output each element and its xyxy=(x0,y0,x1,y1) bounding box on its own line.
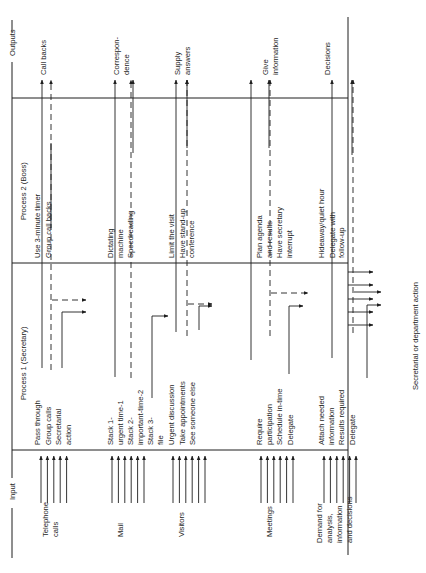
process2-item: Hideaway/quiet hour xyxy=(317,188,326,258)
process2-item: conference xyxy=(187,220,196,258)
output-label: answers xyxy=(183,47,192,75)
output-label: information xyxy=(271,37,280,75)
process2-item: interrupt xyxy=(285,229,294,258)
input-label: information xyxy=(335,505,344,543)
output-label: dence xyxy=(122,54,131,75)
process1-item: Results required xyxy=(337,390,346,445)
process1-item: Stack 1- xyxy=(106,417,115,445)
process1-item: Require xyxy=(255,418,264,445)
output-label: Call backs xyxy=(39,40,48,75)
process1-item: participation xyxy=(265,404,274,445)
process2-item: Have stand-up xyxy=(178,209,187,258)
process1-item: Schedule in-time xyxy=(275,388,284,445)
process1-item: important-time-2 xyxy=(136,390,145,445)
process1-item: Urgent discussion xyxy=(167,385,176,445)
input-label: Meetings xyxy=(265,506,274,537)
time-management-flow-diagram: Outputs Process 2 (Boss) Process 1 (Secr… xyxy=(0,0,426,573)
zone-label-process2: Process 2 (Boss) xyxy=(19,162,28,220)
process1-item: file xyxy=(156,435,165,445)
process1-item: Group calls xyxy=(44,406,53,445)
input-label: Telephone xyxy=(41,502,50,537)
output-label: Supply xyxy=(173,52,182,75)
input-label: calls xyxy=(51,522,60,537)
process2-item: and results xyxy=(265,221,274,258)
input-label: Mail xyxy=(116,523,125,537)
process1-item: Attach needed xyxy=(317,396,326,445)
process1-item: Secretarial xyxy=(54,408,63,445)
output-label: Correspon- xyxy=(112,37,121,75)
process1-item: Pass through xyxy=(33,400,42,445)
input-label: Demand for xyxy=(315,503,324,543)
diagram-frame xyxy=(12,17,348,558)
process1-item: Delegate xyxy=(348,415,357,445)
process1-item: urgent time-1 xyxy=(116,400,125,445)
process2-item: Dictating xyxy=(106,228,115,258)
process1-item: information xyxy=(327,407,336,445)
input-label: Visitors xyxy=(177,512,186,537)
process2-item: Have secretary xyxy=(275,207,284,258)
process2-item: Speedreading xyxy=(126,211,135,258)
process2-item: Use 3-minute timer xyxy=(33,193,42,258)
process1-item: Take appointments xyxy=(178,381,187,445)
process1-item: Stack 3- xyxy=(146,417,155,445)
process2-item: Limit the visit xyxy=(167,213,176,258)
process2-item: follow-up xyxy=(337,228,346,258)
input-label: analysis, xyxy=(325,513,334,543)
process2-item: Plan agenda xyxy=(255,215,264,258)
output-label: Decisions xyxy=(323,42,332,75)
zone-label-input: Input xyxy=(8,482,17,500)
process1-item: Delegate xyxy=(286,415,295,445)
zone-label-process1: Process 1 (Secretary) xyxy=(19,326,28,400)
process2-item: machine xyxy=(116,229,125,258)
output-label: Give xyxy=(261,59,270,75)
process1-item: See someone else xyxy=(188,382,197,445)
side-label-department-action: Secretarial or department action xyxy=(411,282,420,390)
process1-item: action xyxy=(64,425,73,445)
process1-item: Stack 2- xyxy=(126,417,135,445)
zone-label-outputs: Outputs xyxy=(8,29,17,56)
input-label: and decisions xyxy=(345,496,354,543)
